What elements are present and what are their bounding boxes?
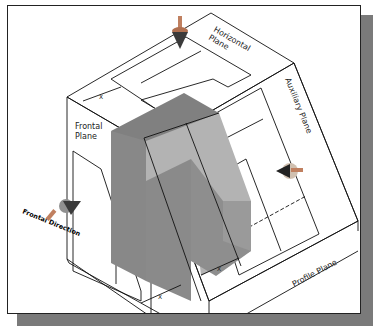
diagram-frame: X X X Horizontal Plane Frontal Plane Aux…	[7, 5, 361, 314]
dimension-top: X	[83, 87, 121, 101]
frontal-plane-label-2: Plane	[75, 132, 97, 141]
projection-diagram: X X X Horizontal Plane Frontal Plane Aux…	[8, 6, 361, 314]
auxiliary-plane-label: Auxiliary Plane	[283, 76, 314, 134]
frontal-direction-arrow-icon	[46, 199, 81, 221]
dimension-bottom: X	[141, 285, 181, 303]
dimension-top-label: X	[99, 93, 103, 100]
auxiliary-direction-arrow-icon	[276, 163, 303, 179]
top-view-arrow-icon	[172, 16, 188, 49]
dimension-right-label: X	[217, 265, 221, 272]
profile-plane-label: Profile Plane	[291, 258, 339, 289]
object-3d	[111, 93, 251, 301]
dimension-bottom-label: X	[158, 293, 162, 300]
frontal-plane-label-1: Frontal	[75, 122, 102, 131]
